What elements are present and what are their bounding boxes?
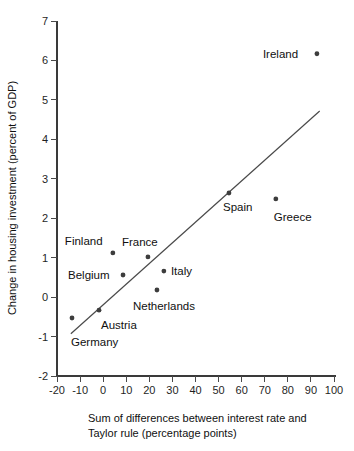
- y-tick-label: 1: [42, 252, 48, 264]
- x-tick-label: 0: [100, 384, 106, 396]
- x-tick-label: 70: [259, 384, 271, 396]
- x-axis-title-line1: Sum of differences between interest rate…: [88, 412, 307, 424]
- y-axis-title: Change in housing investment (percent of…: [6, 81, 18, 315]
- y-tick-label: -1: [38, 331, 48, 343]
- data-point: [146, 254, 151, 259]
- x-tick-label: 40: [189, 384, 201, 396]
- x-tick-label: -20: [49, 384, 65, 396]
- x-tick-label: 90: [305, 384, 317, 396]
- data-point-label: Netherlands: [133, 300, 195, 312]
- y-axis-ticks: -2-101234567: [38, 15, 57, 382]
- y-tick-label: -2: [38, 370, 48, 382]
- data-point: [227, 191, 232, 196]
- x-axis-title-line2: Taylor rule (percentage points): [88, 427, 237, 439]
- data-point: [97, 308, 102, 313]
- data-point-label: Italy: [171, 265, 192, 277]
- x-tick-label: 50: [212, 384, 224, 396]
- x-tick-label: -10: [72, 384, 88, 396]
- data-point-label: Spain: [223, 201, 252, 213]
- y-tick-label: 2: [42, 212, 48, 224]
- x-axis-ticks: -20-100102030405060708090100: [49, 376, 343, 396]
- y-tick-label: 6: [42, 54, 48, 66]
- x-tick-label: 10: [120, 384, 132, 396]
- y-tick-label: 3: [42, 173, 48, 185]
- y-tick-label: 7: [42, 15, 48, 27]
- x-tick-label: 30: [166, 384, 178, 396]
- data-point-label: France: [122, 236, 158, 248]
- y-tick-label: 0: [42, 291, 48, 303]
- scatter-chart: -2-101234567 -20-10010203040506070809010…: [0, 0, 354, 451]
- x-tick-label: 20: [143, 384, 155, 396]
- data-point-label: Austria: [101, 319, 137, 331]
- data-point-label: Germany: [71, 336, 119, 348]
- y-tick-label: 4: [42, 133, 48, 145]
- data-point: [315, 51, 320, 56]
- x-tick-label: 100: [325, 384, 343, 396]
- y-tick-label: 5: [42, 94, 48, 106]
- chart-canvas: -2-101234567 -20-10010203040506070809010…: [0, 0, 354, 451]
- data-point: [70, 316, 75, 321]
- axes-group: [57, 21, 336, 376]
- data-point-label: Ireland: [263, 48, 298, 60]
- data-point: [110, 251, 115, 256]
- x-tick-label: 80: [282, 384, 294, 396]
- data-point-label: Belgium: [68, 269, 110, 281]
- data-point: [121, 273, 126, 278]
- data-point: [161, 269, 166, 274]
- data-point-label: Finland: [65, 235, 103, 247]
- data-points: GermanyAustriaFinlandBelgiumFranceNether…: [65, 48, 319, 348]
- x-tick-label: 60: [236, 384, 248, 396]
- data-point-label: Greece: [274, 211, 312, 223]
- data-point: [273, 196, 278, 201]
- data-point: [155, 288, 160, 293]
